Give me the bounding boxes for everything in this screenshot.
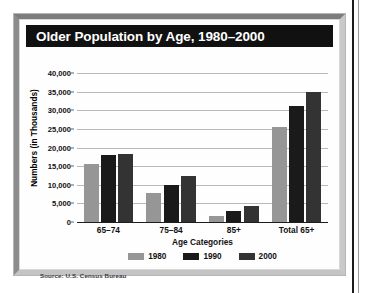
y-axis-tick-mark <box>71 128 74 129</box>
page-title: Older Population by Age, 1980–2000 <box>36 29 265 44</box>
page-edge-rule <box>352 0 354 293</box>
bar <box>244 206 259 222</box>
legend-label: 1990 <box>203 252 221 261</box>
y-axis-tick-label: 5,000 <box>52 199 71 208</box>
source-note: Source: U.S. Census Bureau <box>40 272 127 279</box>
figure-frame: Older Population by Age, 1980–2000 Numbe… <box>14 14 345 275</box>
bar <box>272 127 287 222</box>
legend-swatch <box>128 253 144 260</box>
legend-swatch <box>239 253 255 260</box>
bar <box>226 211 241 222</box>
bar <box>289 106 304 222</box>
y-axis-tick-mark <box>71 73 74 74</box>
y-axis-tick-mark <box>71 91 74 92</box>
y-axis-tick-mark <box>71 147 74 148</box>
y-axis-tick-mark <box>71 110 74 111</box>
legend-label: 2000 <box>259 252 277 261</box>
y-axis-tick-label: 40,000 <box>48 69 71 78</box>
legend-item: 2000 <box>239 252 277 261</box>
x-axis-tick-label: Total 65+ <box>279 225 315 235</box>
bar-series-layer <box>77 73 328 222</box>
figure-inner-panel: Older Population by Age, 1980–2000 Numbe… <box>19 19 340 270</box>
legend-item: 1990 <box>183 252 221 261</box>
y-axis-tick-label: 10,000 <box>48 180 71 189</box>
x-axis-tick-label: 65–74 <box>97 225 120 235</box>
chart-legend: 198019902000 <box>77 252 328 261</box>
bar <box>118 154 133 223</box>
bar <box>209 216 224 222</box>
x-axis-tick-label: 85+ <box>227 225 241 235</box>
y-axis-tick-label: 25,000 <box>48 124 71 133</box>
y-axis-tick-label: 30,000 <box>48 106 71 115</box>
legend-item: 1980 <box>128 252 166 261</box>
chart-title-bar: Older Population by Age, 1980–2000 <box>26 25 333 47</box>
legend-swatch <box>183 253 199 260</box>
y-axis-title: Numbers (in Thousands) <box>27 78 41 198</box>
y-axis-tick-mark <box>71 166 74 167</box>
x-axis-tick-label: 75–84 <box>160 225 183 235</box>
y-axis-tick-labels: 05,00010,00015,00020,00025,00030,00035,0… <box>40 73 74 222</box>
x-axis-tick-labels: 65–7475–8485+Total 65+ <box>77 225 328 237</box>
bar <box>164 185 179 222</box>
y-axis-tick-label: 15,000 <box>48 162 71 171</box>
bar <box>84 164 99 222</box>
chart-plot-area <box>77 73 328 223</box>
bar <box>306 92 321 222</box>
y-axis-tick-mark <box>71 203 74 204</box>
page-edge-rule-secondary <box>358 0 359 293</box>
y-axis-tick-mark <box>71 184 74 185</box>
y-axis-title-label: Numbers (in Thousands) <box>29 89 39 187</box>
bar <box>181 176 196 222</box>
x-axis-title: Age Categories <box>77 237 328 247</box>
y-axis-tick-mark <box>71 222 74 223</box>
chart-plot-wrapper: Numbers (in Thousands) 05,00010,00015,00… <box>26 50 333 265</box>
bar <box>101 155 116 222</box>
bar <box>146 193 161 222</box>
legend-label: 1980 <box>148 252 166 261</box>
y-axis-tick-label: 20,000 <box>48 143 71 152</box>
y-axis-tick-label: 35,000 <box>48 87 71 96</box>
